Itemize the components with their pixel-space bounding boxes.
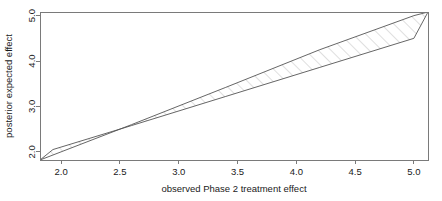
y-tick-label: 5.0	[26, 9, 37, 22]
x-axis-ticks: 2.02.53.03.54.04.55.0	[55, 160, 421, 177]
x-tick-label: 5.0	[407, 166, 420, 177]
x-tick-label: 4.0	[290, 166, 303, 177]
y-axis-title: posterior expected effect	[3, 34, 14, 138]
y-tick-label: 4.0	[26, 54, 37, 67]
y-tick-label: 2.0	[26, 145, 37, 158]
x-tick-label: 2.5	[113, 166, 126, 177]
y-tick-label: 3.0	[26, 100, 37, 113]
shaded-band-group	[40, 12, 428, 160]
x-tick-label: 3.5	[231, 166, 244, 177]
x-axis-title: observed Phase 2 treatment effect	[161, 183, 306, 194]
x-tick-label: 4.5	[348, 166, 361, 177]
plot-canvas: 2.02.53.03.54.04.55.0 2.03.04.05.0 obser…	[0, 0, 442, 201]
x-tick-label: 2.0	[55, 166, 68, 177]
chart-figure: 2.02.53.03.54.04.55.0 2.03.04.05.0 obser…	[0, 0, 442, 201]
y-axis-ticks: 2.03.04.05.0	[26, 9, 40, 158]
x-tick-label: 3.0	[172, 166, 185, 177]
